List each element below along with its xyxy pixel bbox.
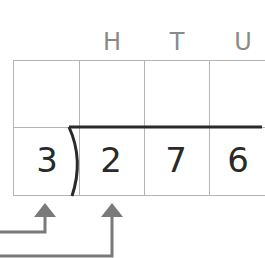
division-bracket-icon — [69, 127, 262, 196]
arrow-up-icon-divisor — [0, 203, 56, 232]
arrow-up-icon-hundreds — [0, 203, 123, 256]
division-bracket-and-arrows — [0, 0, 265, 258]
